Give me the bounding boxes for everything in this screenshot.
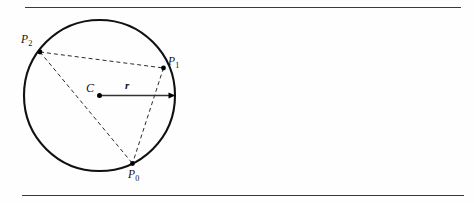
chord-p1-p0 xyxy=(133,68,164,164)
label-p0-base: P xyxy=(128,168,135,180)
point-p2-dot xyxy=(38,50,43,55)
label-p1-base: P xyxy=(168,55,175,67)
label-point-p2: P2 xyxy=(21,34,32,46)
label-p0-subscript: 0 xyxy=(135,174,139,183)
chord-p2-p1 xyxy=(40,52,164,68)
label-point-p1: P1 xyxy=(168,56,179,68)
label-point-p0: P0 xyxy=(128,169,139,181)
circle-diagram-svg xyxy=(0,0,474,203)
point-p1-dot xyxy=(161,66,166,71)
figure-container: P2 P1 P0 C r xyxy=(0,0,474,203)
label-center-c: C xyxy=(86,82,94,94)
chord-p2-p0 xyxy=(40,52,133,164)
label-p1-subscript: 1 xyxy=(175,61,179,70)
label-p2-base: P xyxy=(21,33,28,45)
label-radius-r: r xyxy=(125,80,129,91)
center-point-dot xyxy=(97,93,102,98)
label-p2-subscript: 2 xyxy=(28,39,32,48)
point-p0-dot xyxy=(130,161,135,166)
